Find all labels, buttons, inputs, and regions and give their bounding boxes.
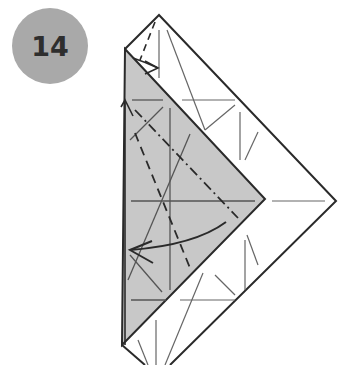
origami-diagram [0,0,358,365]
